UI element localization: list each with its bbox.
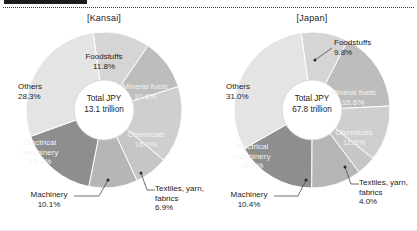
slice-pct-electrical-kansai: 16.4% <box>10 157 70 167</box>
total-value-kansai: 13.1 trillion <box>84 105 124 114</box>
slice-name-electrical-kansai-1: Electrical <box>24 138 56 147</box>
figure-canvas: [Kansai] Total JPY 13.1 trillion Foodstu… <box>0 0 417 231</box>
slice-label-chemicals-japan: Chemicals 11.5% <box>324 128 384 147</box>
slice-label-electrical-machinery-japan: Electrical machinery 16.7% <box>222 142 282 171</box>
slice-name-textiles-japan-2: fabrics <box>359 188 408 198</box>
slice-name-mineral-fuels-japan: Mineral fuels <box>330 88 375 97</box>
slice-pct-machinery-kansai: 10.1% <box>22 200 76 210</box>
slice-label-machinery-japan: Machinery 10.4% <box>222 190 276 209</box>
slice-label-mineral-fuels-kansai: Mineral fuels 10.6% <box>112 82 178 101</box>
slice-label-machinery-kansai: Machinery 10.1% <box>22 190 76 209</box>
slice-name-others-kansai: Others <box>18 82 42 91</box>
slice-pct-machinery-japan: 10.4% <box>222 200 276 210</box>
chart-panel-japan: [Japan] Total JPY 67.8 trillion Foodstuf… <box>208 10 416 231</box>
slice-name-machinery-japan: Machinery <box>231 190 268 199</box>
slice-pct-others-kansai: 28.3% <box>18 92 42 102</box>
slice-pct-textiles-japan: 4.0% <box>359 197 408 207</box>
bottom-rule <box>0 230 417 231</box>
panel-title-kansai: [Kansai] <box>0 13 208 23</box>
slice-label-foodstuffs-japan: Foodstuffs 9.8% <box>334 38 371 57</box>
slice-name-chemicals-kansai: Chemicals <box>127 130 164 139</box>
slice-name-electrical-japan-1: Electrical <box>236 142 268 151</box>
panel-title-japan: [Japan] <box>208 13 416 23</box>
slice-label-textiles-japan: Textiles, yarn, fabrics 4.0% <box>359 178 408 207</box>
slice-label-textiles-kansai: Textiles, yarn, fabrics 6.9% <box>155 184 204 213</box>
slice-name-textiles-japan-1: Textiles, yarn, <box>359 178 408 187</box>
slice-name-foodstuffs-japan: Foodstuffs <box>334 38 371 47</box>
cropped-header-ghost-text <box>92 0 392 4</box>
dotted-divider <box>3 7 414 8</box>
slice-pct-others-japan: 31.0% <box>226 92 250 102</box>
slice-label-chemicals-kansai: Chemicals 16.0% <box>116 130 176 149</box>
slice-label-electrical-machinery-kansai: Electrical machinery 16.4% <box>10 138 70 167</box>
slice-pct-textiles-kansai: 6.9% <box>155 203 204 213</box>
slice-name-textiles-kansai-1: Textiles, yarn, <box>155 184 204 193</box>
slice-name-electrical-japan-2: machinery <box>222 152 282 162</box>
slice-pct-mineral-fuels-kansai: 10.6% <box>112 92 178 102</box>
slice-pct-foodstuffs-japan: 9.8% <box>334 48 371 58</box>
slice-name-others-japan: Others <box>226 82 250 91</box>
slice-label-others-japan: Others 31.0% <box>226 82 250 101</box>
slice-name-chemicals-japan: Chemicals <box>335 128 372 137</box>
slice-name-electrical-kansai-2: machinery <box>10 148 70 158</box>
slice-pct-mineral-fuels-japan: 16.6% <box>320 98 386 108</box>
cropped-header-bar <box>4 0 87 4</box>
slice-label-mineral-fuels-japan: Mineral fuels 16.6% <box>320 88 386 107</box>
slice-label-others-kansai: Others 28.3% <box>18 82 42 101</box>
chart-panel-kansai: [Kansai] Total JPY 13.1 trillion Foodstu… <box>0 10 208 231</box>
slice-name-mineral-fuels-kansai: Mineral fuels <box>122 82 167 91</box>
slice-label-foodstuffs-kansai: Foodstuffs 11.8% <box>62 52 146 71</box>
slice-pct-electrical-japan: 16.7% <box>222 161 282 171</box>
slice-name-textiles-kansai-2: fabrics <box>155 194 204 204</box>
slice-pct-chemicals-kansai: 16.0% <box>116 140 176 150</box>
slice-name-machinery-kansai: Machinery <box>31 190 68 199</box>
slice-name-foodstuffs-kansai: Foodstuffs <box>85 52 122 61</box>
slice-pct-chemicals-japan: 11.5% <box>324 138 384 148</box>
slice-pct-foodstuffs-kansai: 11.8% <box>62 62 146 72</box>
